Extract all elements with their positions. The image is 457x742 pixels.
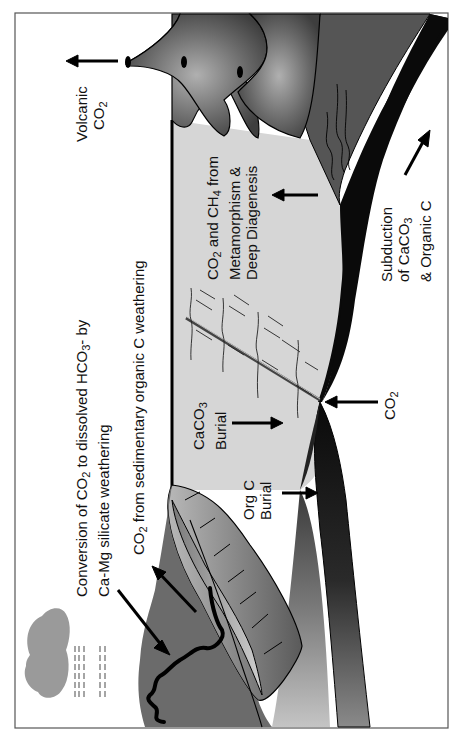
label-subduction: Subduction of CaCO3 & Organic C (378, 200, 434, 282)
label-org-c-burial: Org C Burial (240, 480, 274, 520)
label-volcanic-co2: Volcanic CO2 (73, 86, 112, 142)
label-caco3-burial: CaCO3 Burial (190, 402, 229, 450)
volcano-vent-1 (125, 56, 131, 68)
label-silicate-weathering: Conversion of CO2 to dissolved HCO3- by … (73, 320, 112, 597)
volcano-vent-3 (237, 66, 243, 78)
label-metamorphism: CO2 and CH4 from Metamorphism & Deep Dia… (204, 156, 260, 280)
carbon-cycle-diagram (0, 0, 457, 742)
label-trench-co2: CO2 (381, 391, 403, 420)
label-organic-weathering: CO2 from sedimentary organic C weatherin… (130, 260, 152, 555)
volcano-vent-2 (181, 56, 187, 68)
